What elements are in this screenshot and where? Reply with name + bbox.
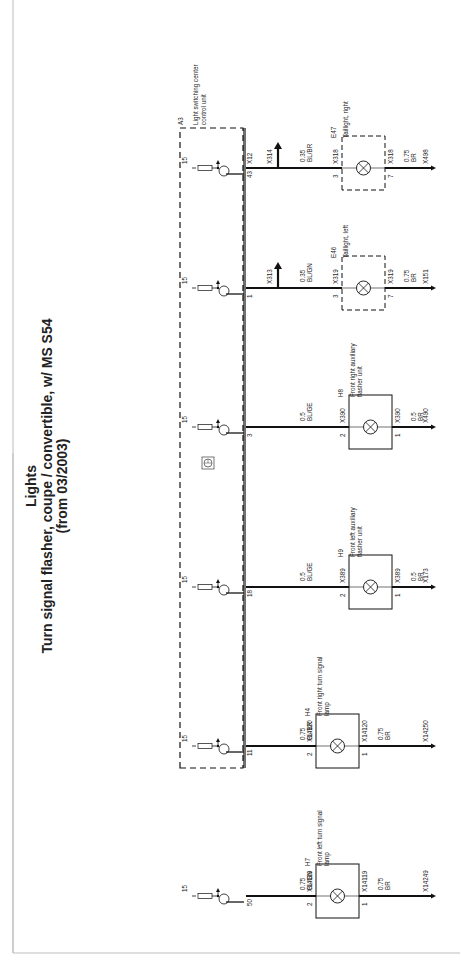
- gnd-wire-color-label: BR: [410, 273, 417, 282]
- comp-in-connector-label: X319: [332, 269, 339, 284]
- component-name-2: flasher unit: [356, 526, 363, 557]
- ground-label: X498: [422, 149, 429, 164]
- component-name-2: lamp: [323, 702, 331, 716]
- ground-label: X14249: [422, 870, 429, 892]
- component-name-2: lamp: [323, 852, 331, 866]
- control-unit-id: A3: [177, 117, 184, 125]
- unit-pin-label: 18: [246, 589, 253, 597]
- terminal-15-label: 15: [181, 884, 188, 892]
- comp-in-connector-label: X14120: [306, 720, 313, 742]
- gnd-wire-size-label: 0.5: [410, 572, 417, 581]
- circuit-h9: 15180.5BL/GEX3892X38910.5BRX173H9Front l…: [181, 506, 436, 609]
- ground-label: X173: [422, 568, 429, 583]
- comp-out-connector-label: X319: [387, 269, 394, 284]
- component-id-label: H4: [304, 707, 311, 716]
- unit-pin-label: 43: [246, 170, 253, 178]
- comp-in-pin-label: 3: [332, 294, 339, 298]
- wire-size-label: 0.75: [299, 727, 306, 740]
- wire-color-label: BL/BR: [306, 143, 313, 162]
- comp-in-pin-label: 3: [332, 174, 339, 178]
- comp-out-connector-label: X14119: [361, 870, 368, 892]
- title-line-1: Lights: [23, 465, 39, 507]
- control-unit-name-1: Light switching center: [192, 64, 200, 125]
- unit-pin-label: 11: [246, 749, 253, 756]
- gnd-wire-size-label: 0.5: [410, 412, 417, 421]
- comp-in-pin-label: 2: [306, 902, 313, 906]
- circuit-e47: 15X31443X120.35BL/BRX3183X31870.75BRX498…: [181, 101, 436, 190]
- page-frame: [13, 0, 460, 953]
- wiring-diagram-rotated: Lights Turn signal flasher, coupe / conv…: [0, 0, 461, 973]
- gnd-wire-size-label: 0.75: [403, 149, 410, 162]
- component-id-label: H9: [337, 548, 344, 557]
- wiring-diagram-svg: Lights Turn signal flasher, coupe / conv…: [0, 0, 461, 973]
- ground-symbol-icon: [202, 457, 214, 469]
- unit-connector-label: X12: [246, 152, 253, 164]
- unit-pin-label: 3: [246, 433, 253, 437]
- comp-out-connector-label: X14120: [361, 720, 368, 742]
- wire-color-label: BL/GN: [306, 263, 313, 282]
- comp-in-pin-label: 2: [339, 593, 346, 597]
- gnd-wire-size-label: 0.75: [403, 269, 410, 282]
- comp-out-pin-label: 7: [387, 174, 394, 178]
- component-id-label: E47: [330, 126, 337, 138]
- ground-label: X490: [422, 408, 429, 423]
- unit-pin-label: 50: [246, 898, 253, 906]
- wire-size-label: 0.35: [299, 149, 306, 162]
- comp-out-pin-label: 1: [394, 593, 401, 597]
- comp-in-pin-label: 2: [339, 433, 346, 437]
- comp-out-connector-label: X389: [394, 568, 401, 583]
- wire-size-label: 0.75: [299, 877, 306, 890]
- component-name-1: Taillight, right: [342, 101, 350, 138]
- component-id-label: E46: [330, 246, 337, 258]
- ground-label: X151: [422, 269, 429, 284]
- comp-out-pin-label: 1: [394, 433, 401, 437]
- wire-size-label: 0.5: [299, 572, 306, 581]
- comp-in-connector-label: X390: [339, 408, 346, 423]
- terminal-15-label: 15: [181, 415, 188, 423]
- circuit-h7: 15500.75BL/GNX141192X1411910.75BRX14249H…: [181, 810, 436, 918]
- comp-in-connector-label: X389: [339, 568, 346, 583]
- wire-size-label: 0.35: [299, 269, 306, 282]
- terminal-15-label: 15: [181, 276, 188, 284]
- circuit-h4: 15110.75BL/BRX141202X1412010.75BRX14250H…: [181, 657, 436, 769]
- comp-out-pin-label: 1: [361, 752, 368, 756]
- comp-out-connector-label: X318: [387, 149, 394, 164]
- terminal-15-label: 15: [181, 734, 188, 742]
- component-name-1: Taillight, left: [342, 225, 350, 258]
- ground-label: X14250: [422, 720, 429, 742]
- comp-out-connector-label: X390: [394, 408, 401, 423]
- comp-in-pin-label: 2: [306, 752, 313, 756]
- wire-size-label: 0.5: [299, 412, 306, 421]
- branch-connector-label: X313: [266, 269, 273, 284]
- comp-in-connector-label: X318: [332, 149, 339, 164]
- unit-pin-label: 1: [246, 294, 253, 298]
- comp-in-connector-label: X14119: [306, 870, 313, 892]
- comp-out-pin-label: 1: [361, 902, 368, 906]
- circuit-h8: 1530.5BL/GEX3902X39010.5BRX490H8Front ri…: [181, 343, 436, 449]
- control-unit-name-2: control unit: [200, 94, 207, 125]
- diagram-title: Lights Turn signal flasher, coupe / conv…: [23, 318, 70, 653]
- wire-color-label: BL/GE: [306, 562, 313, 581]
- component-id-label: H8: [337, 388, 344, 397]
- gnd-wire-color-label: BR: [410, 153, 417, 162]
- comp-out-pin-label: 7: [387, 294, 394, 298]
- gnd-wire-size-label: 0.75: [377, 727, 384, 740]
- circuits: 15X31443X120.35BL/BRX3183X31870.75BRX498…: [181, 101, 436, 918]
- title-line-2: Turn signal flasher, coupe / convertible…: [39, 318, 55, 653]
- terminal-15-label: 15: [181, 575, 188, 583]
- gnd-wire-color-label: BR: [384, 731, 391, 740]
- wire-color-label: BL/GE: [306, 402, 313, 421]
- gnd-wire-size-label: 0.75: [377, 877, 384, 890]
- title-line-3: (from 03/2003): [54, 439, 70, 534]
- component-name-2: flasher unit: [356, 366, 363, 397]
- component-id-label: H7: [304, 857, 311, 866]
- circuit-e46: 15X31310.35BL/GNX3193X31970.75BRX151E46T…: [181, 225, 436, 310]
- terminal-15-label: 15: [181, 156, 188, 164]
- branch-connector-label: X314: [266, 149, 273, 164]
- gnd-wire-color-label: BR: [384, 881, 391, 890]
